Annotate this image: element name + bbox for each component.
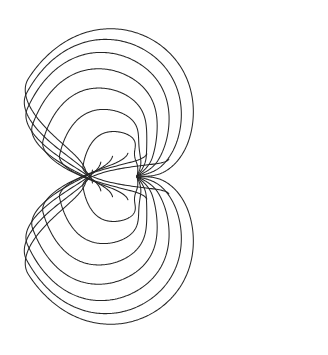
spiral-figure-svg — [0, 0, 328, 355]
figure-container — [0, 0, 328, 355]
